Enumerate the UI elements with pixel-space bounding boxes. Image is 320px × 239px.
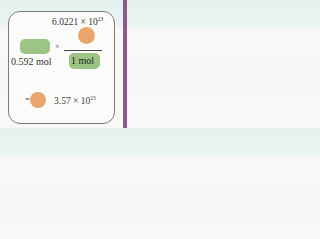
particles-unit-circle-icon [78, 27, 95, 44]
numerator-avogadro: 6.0221 × 1023 [52, 16, 103, 27]
result-value: 3.57 × 1023 [54, 95, 96, 106]
numerator-exponent: 23 [98, 16, 104, 22]
multiply-sign: × [55, 42, 60, 51]
result-particles-circle-icon [30, 92, 46, 108]
denominator-text: 1 mol [71, 55, 94, 66]
given-value: 0.592 mol [11, 56, 52, 67]
result-exponent: 23 [90, 95, 96, 101]
accent-bar [123, 0, 127, 128]
calculation-panel [8, 11, 115, 124]
given-moles-box-icon [20, 39, 50, 54]
fraction-bar [64, 50, 102, 51]
numerator-mantissa: 6.0221 × 10 [52, 17, 98, 27]
equals-sign: = [25, 95, 30, 104]
result-mantissa: 3.57 × 10 [54, 96, 90, 106]
